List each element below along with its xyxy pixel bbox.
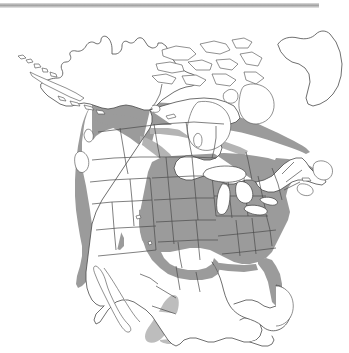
prince-edward-island: [302, 178, 311, 181]
lake-speck: [148, 241, 152, 245]
figure-canvas: [0, 0, 349, 353]
greenland-outline: [278, 31, 342, 106]
range-map: [0, 10, 349, 353]
great-slave-lake: [152, 105, 160, 112]
top-divider-rule: [0, 3, 319, 8]
haida-gwaii: [84, 129, 93, 142]
baffin-island: [239, 84, 274, 124]
yucatan-peninsula: [276, 286, 293, 326]
lake-superior: [203, 166, 246, 182]
great-salt-lake: [136, 215, 141, 219]
lake-winnipeg: [194, 133, 202, 147]
map-svg: [0, 10, 349, 353]
vancouver-island: [75, 151, 89, 172]
nova-scotia: [297, 184, 313, 196]
